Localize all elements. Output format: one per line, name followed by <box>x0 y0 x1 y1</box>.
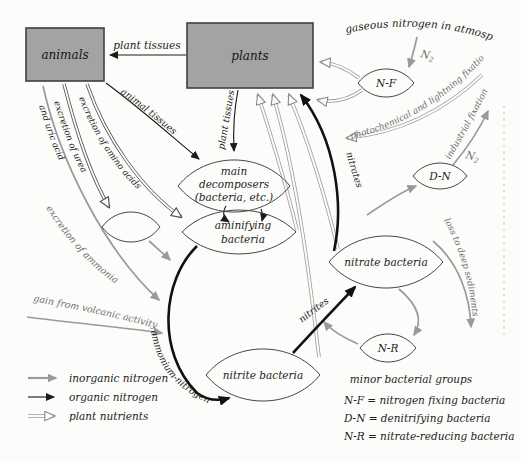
label-nitrates: nitrates <box>344 150 365 189</box>
aminifying-label-1: aminifying <box>215 219 272 231</box>
aminifying-pool: aminifying bacteria <box>182 210 296 254</box>
key-entry-nf: N-F = nitrogen fixing bacteria <box>343 394 505 406</box>
label-plant-tissues-top: plant tissues <box>113 39 181 51</box>
arrow-pool-to-ammonium <box>149 241 170 260</box>
label-n2-denitrified: N2 <box>463 148 481 165</box>
dn-label: D-N <box>428 170 451 182</box>
nitrite-bacteria-label: nitrite bacteria <box>223 369 303 381</box>
bacterial-groups-key: minor bacterial groups N-F = nitrogen fi… <box>343 373 514 442</box>
nitrate-bacteria-label: nitrate bacteria <box>344 256 427 268</box>
key-title: minor bacterial groups <box>350 373 473 385</box>
animals-label: animals <box>41 48 88 62</box>
main-decomposers-pool: main decomposers (bacteria, etc.) <box>178 160 290 212</box>
label-animal-tissues: animal tissues <box>119 86 179 137</box>
nf-pool: N-F <box>358 69 414 97</box>
plants-box: plants <box>187 23 313 88</box>
key-entry-nr: N-R = nitrate-reducing bacteria <box>343 430 514 442</box>
legend-organic-label: organic nitrogen <box>69 391 158 403</box>
plants-label: plants <box>231 49 268 63</box>
arrow-nitrate-to-dn <box>367 186 416 215</box>
legend-inorganic-label: inorganic nitrogen <box>69 372 168 384</box>
decomposers-label-3: (bacteria, etc.) <box>195 191 273 203</box>
nitrate-bacteria-pool: nitrate bacteria <box>329 236 443 288</box>
nitrogen-cycle-diagram: animals plants N-F D-N N-R main decompos… <box>0 0 521 462</box>
key-entry-dn: D-N = denitrifying bacteria <box>343 412 490 424</box>
decomposers-label-2: decomposers <box>199 178 270 190</box>
unlabeled-pool <box>102 212 160 242</box>
arrow-nr-to-nitrites <box>324 322 358 344</box>
plant-nutrient-arrows <box>258 62 482 357</box>
aminifying-label-2: bacteria <box>221 233 265 245</box>
legend: inorganic nitrogen organic nitrogen plan… <box>28 372 168 422</box>
label-loss-to-sediments: loss to deep sediments <box>442 216 480 317</box>
decomposers-label-1: main <box>221 165 248 177</box>
legend-plant-nutrients-label: plant nutrients <box>69 410 149 422</box>
label-excretion-amino-acids: excretion of amino acids <box>77 95 143 191</box>
arrow-nitrate-to-nr <box>399 289 419 335</box>
nr-label: N-R <box>377 342 399 354</box>
label-n2-atmosphere: N2 <box>418 47 436 64</box>
nr-pool: N-R <box>360 334 416 362</box>
nitrite-bacteria-pool: nitrite bacteria <box>206 349 320 401</box>
arrow-atmosphere-to-nf <box>409 37 417 67</box>
nf-label: N-F <box>375 77 397 89</box>
label-ammonium-nitrogen: ammonium-nitrogen <box>149 329 212 405</box>
label-excretion-ammonia: excretion of ammonia <box>44 203 120 285</box>
animals-box: animals <box>26 28 104 81</box>
dn-pool: D-N <box>413 163 467 189</box>
